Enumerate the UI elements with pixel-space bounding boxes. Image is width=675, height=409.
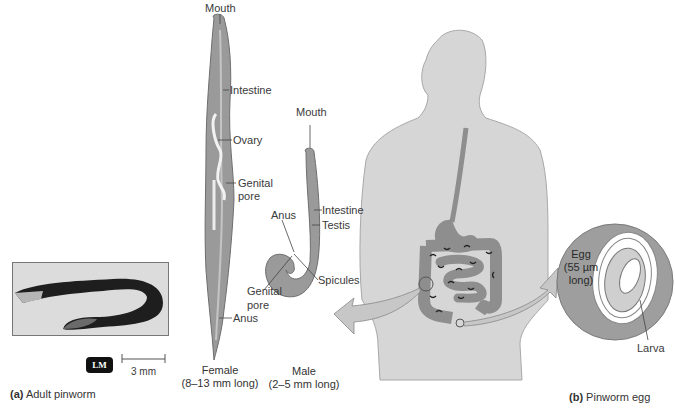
male-caption: Male (2–5 mm long) [268,365,340,391]
female-caption: Female (8–13 mm long) [180,364,260,390]
larva-label: Larva [637,342,665,354]
male-label-pore: pore [247,299,269,311]
male-label-mouth: Mouth [296,106,327,118]
panel-b-caption: (b) Pinworm egg [569,391,650,404]
egg-label-title: Egg [563,248,599,261]
egg-label-long: long) [563,274,599,287]
male-label-anus: Anus [271,209,296,221]
male-label-genital: Genital [247,285,282,297]
female-caption-title: Female [180,364,260,377]
female-label-pore: pore [238,190,260,202]
male-label-spicules: Spicules [318,274,360,286]
human-torso-illustration [360,30,548,380]
panel-b-letter: (b) [569,391,583,403]
egg-label-size: (55 µm [563,261,599,274]
scale-bar-line [122,354,165,363]
panel-a-letter: (a) [10,388,23,400]
male-label-intestine: Intestine [322,204,364,216]
scale-bar-label: 3 mm [131,366,156,378]
panel-b-title: Pinworm egg [586,391,650,403]
female-caption-size: (8–13 mm long) [180,377,260,390]
female-label-genital: Genital [238,177,273,189]
female-label-anus: Anus [233,312,258,324]
pinworm-micrograph [12,262,169,336]
male-caption-title: Male [268,365,340,378]
light-micrograph-badge: LM [86,357,113,373]
egg-label: Egg (55 µm long) [563,248,599,287]
male-label-testis: Testis [322,219,350,231]
female-label-ovary: Ovary [233,134,262,146]
female-label-mouth: Mouth [205,2,236,14]
male-caption-size: (2–5 mm long) [268,378,340,391]
panel-a-caption: (a) Adult pinworm [10,388,96,401]
panel-a-title: Adult pinworm [26,388,96,400]
female-label-intestine: Intestine [230,84,272,96]
female-worm-illustration [205,14,236,360]
